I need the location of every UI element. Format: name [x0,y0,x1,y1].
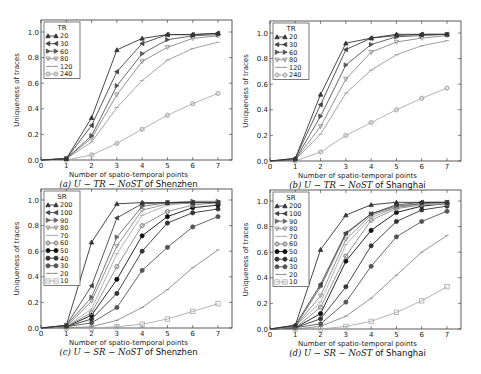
x-tick-label: 2 [318,163,322,171]
legend-title: TR [56,24,66,32]
octagon-marker-icon [283,265,287,269]
x-tick-label: 4 [140,330,145,338]
octagon-marker-icon [216,215,220,219]
y-tick-label: 0.8 [257,223,268,231]
x-tick-label: 1 [64,162,68,170]
x-tick-label: 4 [140,162,145,170]
x-tick-label: 3 [115,162,119,170]
octagon-marker-icon [394,235,398,239]
octagon-marker-icon [46,264,50,268]
octagon-marker-icon [115,305,119,309]
y-tick-label: 1.0 [257,198,268,206]
y-tick-label: 0.2 [257,132,268,140]
figure: 012345670.00.20.40.60.81.0Number of spat… [0,0,481,374]
caption-math: U − SR − NoST [74,347,144,357]
y-tick-label: 0.0 [257,158,268,166]
y-axis-label: Uniqueness of traces [242,222,250,296]
figure-caption: (d) U − SR − NoST of Shanghai [289,348,426,358]
y-tick-label: 0.6 [257,249,269,257]
x-tick-label: 5 [394,331,398,339]
legend-label: 10 [289,278,297,286]
legend: SR200100908070605040302010 [273,192,309,287]
x-tick-label: 6 [190,330,195,338]
octagon-marker-icon [369,264,373,268]
x-tick-label: 2 [318,331,322,339]
caption-prefix: (c) [59,347,73,357]
x-axis-label: Number of spatio-temporal points [69,339,188,347]
y-tick-label: 1.0 [28,197,39,205]
y-tick-label: 0.2 [257,300,268,308]
y-tick-label: 0.4 [257,106,269,114]
x-tick-label: 3 [344,163,348,171]
octagon-marker-icon [275,265,279,269]
y-tick-label: 0.2 [28,299,39,307]
legend-label: 240 [60,70,72,78]
octagon-marker-icon [191,225,195,229]
octagon-marker-icon [165,245,169,249]
pentagon-marker-icon [115,291,119,295]
y-tick-label: 1.0 [28,29,39,37]
x-tick-label: 5 [165,330,169,338]
x-tick-label: 4 [369,331,374,339]
hexagon-marker-icon [46,249,50,253]
legend: TR20306080120240 [44,22,80,79]
legend: SR200100908070605040302010 [44,191,80,286]
pentagon-marker-icon [275,257,279,261]
chart-panel-b: 012345670.00.20.40.60.81.0Number of spat… [242,21,461,190]
caption-math: U − SR − NoST [304,348,374,358]
caption-suffix: of Shanghai [372,348,425,358]
y-tick-label: 0.0 [257,326,268,334]
x-tick-label: 6 [419,331,424,339]
y-axis-label: Uniqueness of traces [13,53,21,127]
caption-suffix: of Shenzhen [142,347,197,357]
octagon-marker-icon [54,264,58,268]
figure-caption: (c) U − SR − NoST of Shenzhen [59,347,197,357]
pentagon-marker-icon [140,249,144,253]
hexagon-marker-icon [140,234,144,238]
legend: TR20306080120240 [273,23,309,80]
y-tick-label: 0.4 [28,273,40,281]
x-tick-label: 2 [89,330,93,338]
y-tick-label: 0.6 [257,81,269,89]
legend-title: SR [286,194,295,202]
y-tick-label: 0.4 [257,274,269,282]
hexagon-marker-icon [54,249,58,253]
x-tick-label: 6 [419,163,424,171]
x-tick-label: 4 [369,163,374,171]
hexagon-marker-icon [283,250,287,254]
hexagon-marker-icon [115,277,119,281]
pentagon-marker-icon [191,211,195,215]
x-axis-label: Number of spatio-temporal points [298,340,417,348]
octagon-marker-icon [318,322,322,326]
x-tick-label: 5 [165,162,169,170]
y-tick-label: 0.8 [28,222,39,230]
octagon-marker-icon [445,209,449,213]
pentagon-marker-icon [283,257,287,261]
x-axis-label: Number of spatio-temporal points [69,171,188,179]
chart-panel-c: 012345670.00.20.40.60.81.0Number of spat… [13,189,232,357]
hexagon-marker-icon [318,312,322,316]
x-tick-label: 1 [293,331,297,339]
pentagon-marker-icon [318,317,322,321]
x-tick-label: 6 [190,162,195,170]
x-tick-label: 1 [64,330,68,338]
caption-prefix: (d) [289,348,304,358]
caption-suffix: of Shenzhen [142,179,197,189]
caption-math: U − TR − NoST [74,179,144,189]
y-tick-label: 0.2 [28,131,39,139]
chart-panel-a: 012345670.00.20.40.60.81.0Number of spat… [13,20,232,189]
x-tick-label: 5 [394,163,398,171]
figure-caption: (b) U − TR − NoST of Shanghai [289,180,425,190]
hexagon-marker-icon [165,215,169,219]
pentagon-marker-icon [344,285,348,289]
hexagon-marker-icon [275,250,279,254]
octagon-marker-icon [420,219,424,223]
legend-title: TR [285,25,295,33]
legend-label: 240 [289,71,301,79]
pentagon-marker-icon [394,219,398,223]
x-tick-label: 2 [89,162,93,170]
legend-title: SR [57,193,66,201]
x-tick-label: 7 [216,330,220,338]
hexagon-marker-icon [369,228,373,232]
y-tick-label: 0.0 [28,157,39,165]
